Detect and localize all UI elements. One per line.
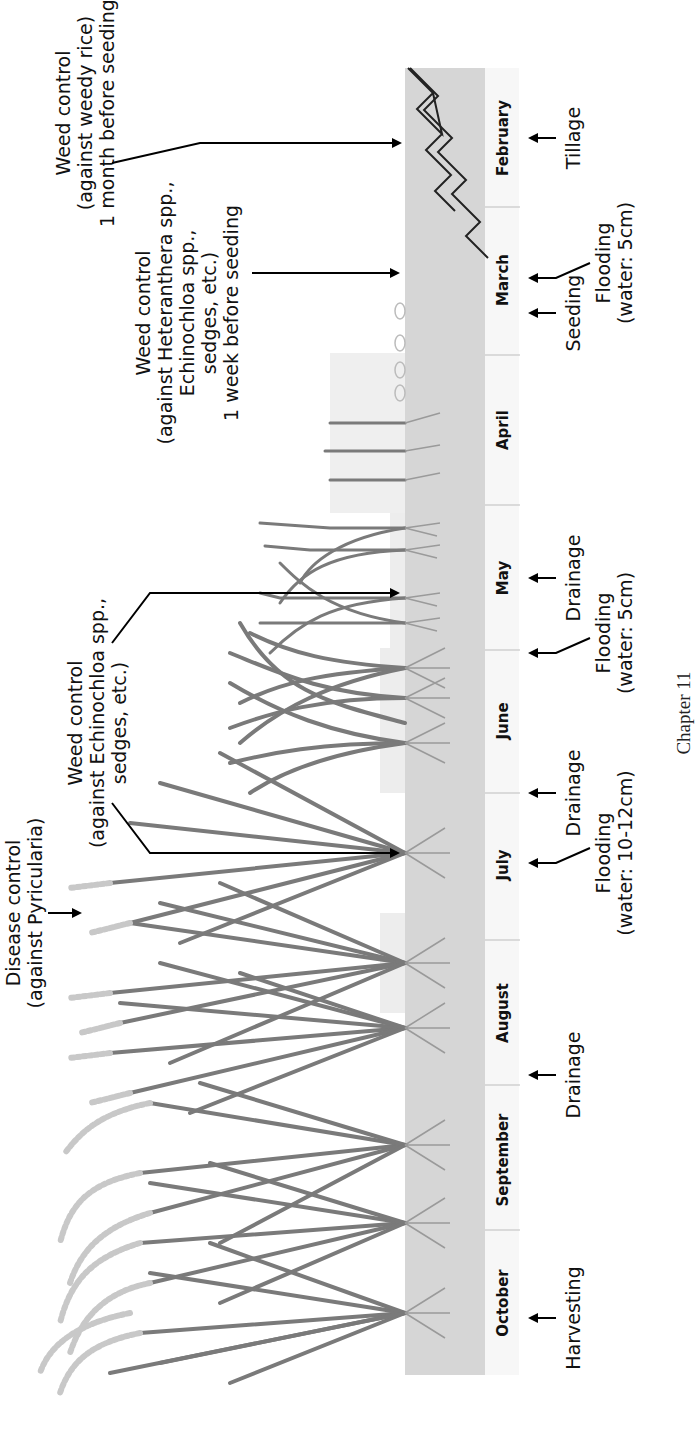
svg-text:sedges, etc.): sedges, etc.) (198, 252, 220, 374)
month-august: August (494, 983, 512, 1043)
op-drainage-2: Drainage (562, 750, 584, 837)
op-drainage-1: Drainage (562, 535, 584, 622)
weed-control-3-annotation: Weed control (against Echinochloa spp., … (64, 593, 398, 853)
rice-calendar-diagram: February March April May June July Augus… (0, 0, 700, 1443)
svg-text:1 week before seeding: 1 week before seeding (220, 205, 242, 421)
month-october: October (494, 1269, 512, 1337)
arrow-icon (112, 143, 400, 163)
svg-text:(against Pyricularia): (against Pyricularia) (24, 818, 46, 1009)
weed-control-1-annotation: Weed control (against weedy rice) 1 mont… (52, 0, 400, 227)
op-tillage: Tillage (562, 107, 584, 170)
svg-text:Weed control: Weed control (64, 660, 86, 785)
svg-text:(against Heteranthera spp.,: (against Heteranthera spp., (154, 182, 176, 445)
month-may: May (494, 561, 512, 596)
svg-text:1 month before seeding: 1 month before seeding (96, 0, 118, 227)
op-flooding-2-line1: Flooding (592, 593, 614, 674)
operations-row: Tillage Flooding (water: 5cm) Seeding Dr… (530, 107, 636, 1370)
svg-text:Disease control: Disease control (2, 840, 24, 987)
month-bar: February March April May June July Augus… (485, 68, 520, 1375)
op-harvesting: Harvesting (562, 1266, 584, 1369)
month-april: April (494, 410, 512, 450)
svg-text:(against weedy rice): (against weedy rice) (74, 16, 96, 210)
svg-text:sedges, etc.): sedges, etc.) (108, 662, 130, 784)
month-march: March (494, 254, 512, 306)
disease-control-annotation: Disease control (against Pyricularia) (2, 818, 80, 1009)
rotated-figure: February March April May June July Augus… (0, 0, 700, 1443)
op-flooding-3-line1: Flooding (592, 813, 614, 894)
arrow-up-icon (530, 848, 590, 863)
svg-text:(against Echinochloa spp.,: (against Echinochloa spp., (86, 598, 108, 848)
soil-band (405, 68, 485, 1375)
month-february: February (494, 100, 512, 176)
op-flooding-3-line2: (water: 10-12cm) (614, 770, 636, 935)
plants-september-october-icon (40, 1083, 450, 1393)
arrow-up-icon (530, 638, 590, 653)
op-flooding-2-line2: (water: 5cm) (614, 572, 636, 694)
svg-text:Echinochloa spp.,: Echinochloa spp., (176, 230, 198, 397)
chapter-caption: Chapter 11 (673, 671, 694, 754)
svg-text:Weed control: Weed control (52, 50, 74, 175)
month-july: July (494, 849, 512, 881)
op-flooding-1-line1: Flooding (592, 223, 614, 304)
month-september: September (494, 1113, 512, 1207)
op-seeding: Seeding (562, 275, 584, 352)
month-june: June (494, 702, 512, 740)
svg-text:Weed control: Weed control (132, 250, 154, 375)
op-drainage-3: Drainage (562, 1032, 584, 1119)
op-flooding-1-line2: (water: 5cm) (614, 202, 636, 324)
